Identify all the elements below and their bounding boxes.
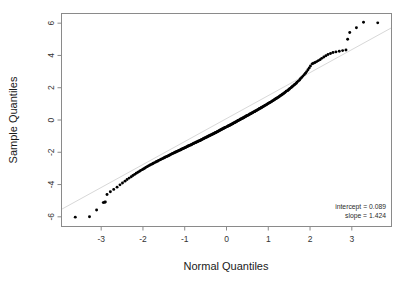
x-tick-label: 3 [349,234,354,244]
data-point [329,52,332,55]
data-point [334,50,337,53]
y-tick-label: 2 [46,85,56,90]
data-point [109,190,112,193]
data-point [345,49,348,52]
y-axis-title: Sample Quantiles [7,76,19,163]
y-tick-label: -2 [46,148,56,156]
y-tick-label: -4 [46,181,56,189]
data-point [376,21,379,24]
data-point [74,216,77,219]
data-point [88,215,91,218]
data-point [346,38,349,41]
x-tick-label: 1 [266,234,271,244]
data-point [348,31,351,34]
annotation-slope: slope = 1.424 [345,212,386,220]
data-point [362,21,365,24]
data-point [338,50,341,53]
data-point [355,26,358,29]
x-tick-label: -3 [97,234,105,244]
x-tick-label: -1 [181,234,189,244]
x-tick-label: 2 [308,234,313,244]
data-point [95,209,98,212]
data-point [116,186,119,189]
data-point [106,193,109,196]
data-point [121,181,124,184]
y-tick-label: 6 [46,21,56,26]
x-tick-label: 0 [224,234,229,244]
data-point [332,51,335,54]
data-point [112,188,115,191]
qq-plot-canvas: -3-2-10123 -6-4-20246 Normal Quantiles S… [0,0,411,284]
data-point [327,53,330,56]
y-tick-label: -6 [46,213,56,221]
data-point [119,183,122,186]
x-tick-label: -2 [139,234,147,244]
y-tick-label: 0 [46,117,56,122]
data-point [104,201,107,204]
y-tick-label: 4 [46,53,56,58]
x-axis-title: Normal Quantiles [184,260,269,272]
qq-plot-figure: -3-2-10123 -6-4-20246 Normal Quantiles S… [0,0,411,284]
data-point [341,49,344,52]
annotation-intercept: intercept = 0.089 [335,203,386,211]
